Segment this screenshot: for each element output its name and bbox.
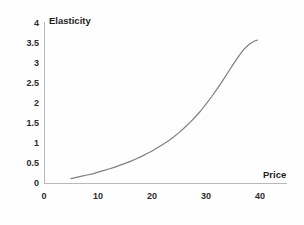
y-axis-tick-label: 1.5	[26, 119, 39, 128]
y-axis-line	[44, 22, 45, 183]
x-axis-tick-label: 0	[29, 192, 59, 201]
y-axis-tick-label: 1	[34, 139, 39, 148]
y-axis-tick-label: 4	[34, 19, 39, 28]
x-axis-tick-label: 20	[137, 192, 167, 201]
y-axis-title: Elasticity	[49, 16, 91, 26]
x-axis-tick-label: 10	[83, 192, 113, 201]
x-axis-title: Price	[263, 170, 286, 180]
y-axis-tick-label: 0	[34, 179, 39, 188]
y-axis-tick-label: 3	[34, 59, 39, 68]
x-axis-line	[44, 183, 287, 184]
y-axis-tick-label: 2.5	[26, 79, 39, 88]
x-axis-tick-label: 30	[191, 192, 221, 201]
y-axis-tick-label: 2	[34, 99, 39, 108]
y-axis-tick-label: 0.5	[26, 159, 39, 168]
y-axis-tick-label: 3.5	[26, 39, 39, 48]
x-axis-tick-label: 40	[245, 192, 275, 201]
elasticity-price-chart: Elasticity Price 00.511.522.533.54 01020…	[0, 0, 304, 225]
